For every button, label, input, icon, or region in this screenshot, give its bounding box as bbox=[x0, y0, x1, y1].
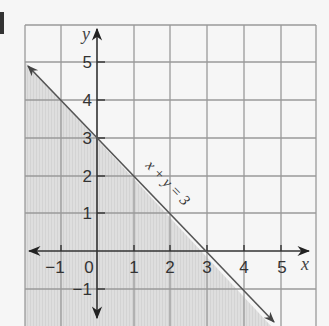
x-axis-label: x bbox=[300, 254, 309, 274]
x-tick-label: 0 bbox=[84, 258, 93, 277]
x-tick-label: 5 bbox=[277, 258, 286, 277]
y-axis-label: y bbox=[80, 24, 90, 44]
x-tick-label: 3 bbox=[202, 258, 211, 277]
y-tick-label: 4 bbox=[83, 91, 92, 110]
y-tick-label: 5 bbox=[83, 53, 92, 72]
x-tick-label: 2 bbox=[165, 258, 174, 277]
cropped-label-mark bbox=[0, 12, 4, 34]
x-tick-label: 1 bbox=[129, 258, 138, 277]
y-tick-label: −1 bbox=[73, 280, 92, 299]
x-tick-label: 4 bbox=[239, 258, 248, 277]
y-tick-label: 1 bbox=[83, 204, 92, 223]
x-tick-label: −1 bbox=[45, 258, 64, 277]
coordinate-graph: −1 0 1 2 3 4 5 5 4 3 2 1 −1 x y x + y = … bbox=[0, 0, 329, 326]
y-tick-label: 2 bbox=[83, 167, 92, 186]
